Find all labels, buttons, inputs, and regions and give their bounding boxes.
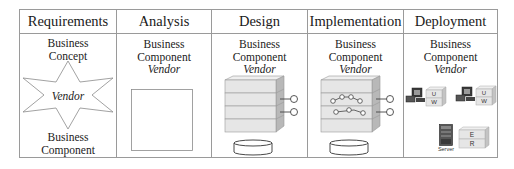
business-component-label: Business Component Vendor: [212, 38, 307, 76]
layered-component-icon: [224, 76, 308, 156]
column-analysis: Analysis Business Component Vendor: [116, 10, 211, 157]
business-component-label: Business Component: [20, 131, 116, 156]
column-design: Design Business Component Vendor: [211, 10, 307, 157]
business-component-label: Business Component Vendor: [308, 38, 403, 76]
workstation-icon: [406, 86, 426, 104]
server-label: Server: [434, 146, 458, 153]
server-icon: [439, 124, 453, 146]
lifecycle-table: Requirements Business Concept Vendor Bus…: [19, 9, 498, 158]
header-deployment: Deployment: [404, 10, 497, 34]
business-concept-label: Business Concept: [20, 37, 116, 62]
server-component-box: E R: [459, 127, 485, 147]
header-analysis: Analysis: [117, 10, 211, 34]
header-implementation: Implementation: [308, 10, 403, 34]
header-requirements: Requirements: [20, 10, 116, 34]
header-design: Design: [212, 10, 307, 34]
business-component-label: Business Component Vendor: [117, 38, 211, 76]
column-implementation: Implementation Business Component Vendor: [307, 10, 403, 157]
workstation-icon: [456, 85, 476, 103]
component-box-icon: [131, 89, 193, 151]
column-deployment: Deployment Business Component Vendor U W: [403, 10, 497, 157]
implemented-component-icon: [320, 76, 404, 156]
component-box: U W: [426, 87, 442, 105]
business-component-label: Business Component Vendor: [404, 38, 497, 76]
star-vendor-label: Vendor: [20, 90, 116, 103]
component-box: U W: [476, 86, 492, 104]
column-requirements: Requirements Business Concept Vendor Bus…: [20, 10, 116, 157]
